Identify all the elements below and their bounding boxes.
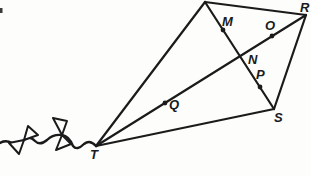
- diagonal-T-R: [96, 15, 306, 146]
- label-S: S: [274, 110, 283, 125]
- edge-T-apex: [96, 2, 205, 146]
- kite-geometry-figure: R M O N P Q S T: [0, 0, 311, 176]
- mark-dot-O: [270, 34, 275, 39]
- edge-S-T: [96, 109, 274, 146]
- label-T: T: [90, 147, 99, 162]
- mark-dot-P: [258, 85, 263, 90]
- kite-diagram-svg: R M O N P Q S T: [0, 0, 311, 176]
- tail-bow-right-upper-ribbon: [53, 118, 67, 135]
- tail-bow-left-upper-ribbon: [24, 126, 38, 140]
- tail-bow-left-lower-ribbon: [9, 140, 24, 154]
- edge-R-S: [274, 15, 306, 109]
- label-M: M: [222, 14, 234, 29]
- label-O: O: [265, 18, 275, 33]
- edge-apex-R: [205, 2, 306, 15]
- label-P: P: [256, 67, 265, 82]
- mark-dot-Q: [163, 101, 168, 106]
- scan-artifact: [0, 8, 3, 13]
- kite-tail: [0, 118, 96, 154]
- label-R: R: [300, 0, 310, 15]
- label-Q: Q: [169, 97, 179, 112]
- label-N: N: [248, 52, 258, 67]
